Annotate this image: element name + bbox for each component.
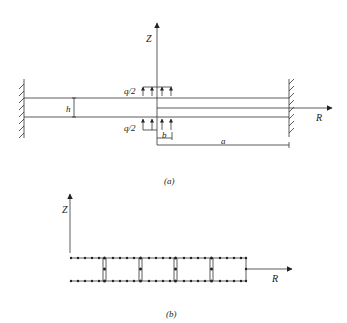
h-label: h — [66, 104, 71, 114]
z-label-a: Z — [146, 33, 152, 44]
load-bottom-label: q/2 — [124, 123, 136, 133]
r-label-b: R — [271, 273, 278, 284]
figure-b — [70, 194, 292, 281]
a-label: a — [221, 136, 226, 146]
top-load-arrows — [143, 87, 172, 96]
load-top-label: q/2 — [124, 86, 136, 96]
r-label-a: R — [315, 112, 322, 123]
diagram-canvas: Z R q/2 q/2 h b a (a) — [0, 0, 347, 323]
figure-a — [19, 23, 332, 148]
mesh-nodes — [70, 257, 247, 283]
left-wall-hatch — [19, 79, 24, 138]
z-label-b: Z — [62, 204, 68, 215]
caption-a: (a) — [164, 176, 175, 186]
mesh-stiffeners — [103, 258, 213, 281]
b-label: b — [162, 130, 167, 140]
caption-b: (b) — [166, 309, 177, 319]
